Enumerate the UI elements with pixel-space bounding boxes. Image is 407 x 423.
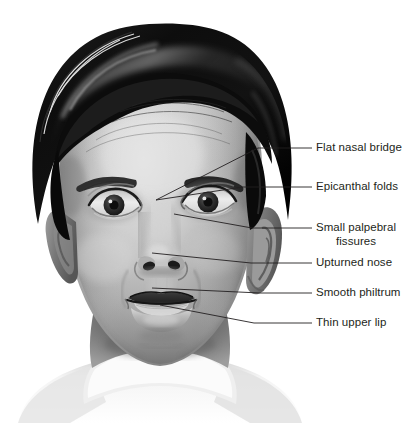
portrait-illustration (0, 0, 407, 423)
annotation-label-epicanthal-folds: Epicanthal folds (316, 180, 398, 194)
annotation-label-upturned-nose: Upturned nose (316, 256, 392, 270)
annotation-label-small-palpebral-fissures: Small palpebral fissures (316, 221, 396, 248)
annotation-label-thin-upper-lip: Thin upper lip (316, 316, 386, 330)
eye-right (178, 183, 238, 219)
annotation-label-smooth-philtrum: Smooth philtrum (316, 286, 400, 300)
facial-features-figure: Flat nasal bridgeEpicanthal foldsSmall p… (0, 0, 407, 423)
annotation-label-flat-nasal-bridge: Flat nasal bridge (316, 141, 402, 155)
